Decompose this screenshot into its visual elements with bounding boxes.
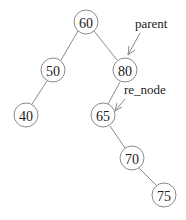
node-80: 80 [113,58,137,82]
edge-60-50 [61,31,78,60]
edge-70-75 [139,168,157,186]
edge-60-80 [94,31,117,60]
svg-text:65: 65 [96,109,110,124]
parent-pointer: parent [128,16,168,55]
node-50: 50 [41,58,65,82]
svg-text:70: 70 [125,152,139,167]
re-node-pointer: re_node [115,82,166,111]
re-node-arrow-icon [115,99,125,111]
tree-diagram: 60 50 80 40 65 70 75 parent [0,0,186,220]
parent-label: parent [135,16,168,31]
node-40: 40 [14,103,38,127]
node-60: 60 [74,10,98,34]
tree-canvas: 60 50 80 40 65 70 75 parent [0,0,186,220]
edge-80-65 [108,82,120,104]
parent-arrow-icon [128,33,140,55]
node-65: 65 [91,103,115,127]
node-75: 75 [152,183,176,207]
svg-text:80: 80 [118,64,132,79]
edge-65-70 [110,126,125,148]
svg-text:50: 50 [46,64,60,79]
svg-text:75: 75 [157,189,171,204]
edge-50-40 [32,81,47,104]
svg-text:60: 60 [79,16,93,31]
svg-text:40: 40 [19,109,33,124]
node-70: 70 [120,146,144,170]
re-node-label: re_node [124,82,166,97]
